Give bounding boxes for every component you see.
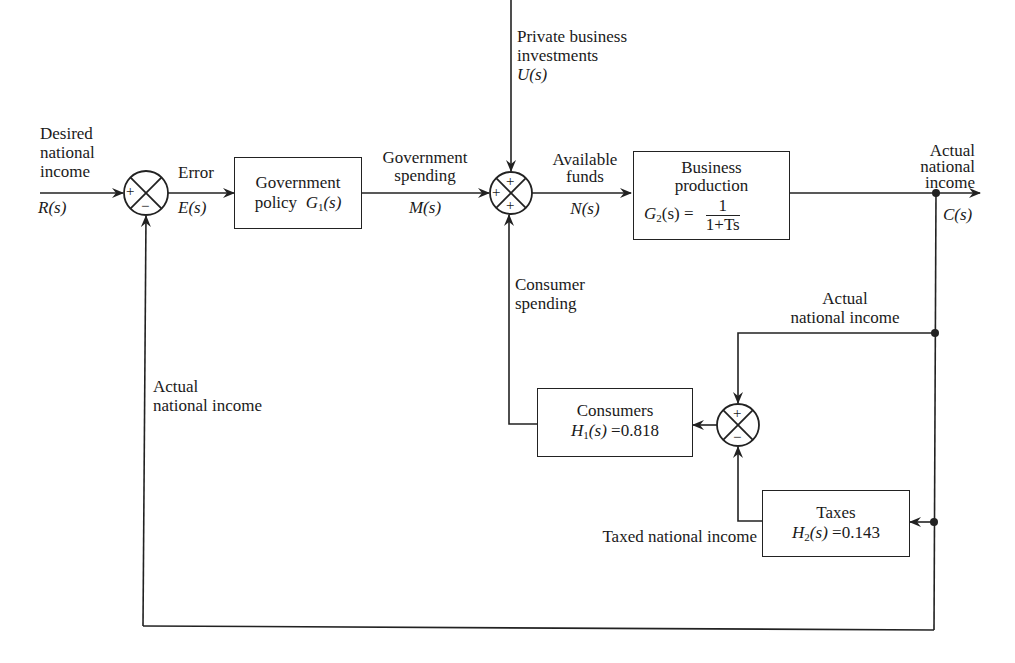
n-symbol: N(s)	[540, 199, 630, 218]
private-label-1: Private business	[517, 27, 627, 46]
consumer-spending-label-1: Consumer	[515, 275, 585, 294]
wire-consumer-spending	[509, 215, 537, 424]
business-line1: Business	[634, 158, 789, 177]
inner-actual-label-1: Actual	[770, 289, 920, 308]
diagram-wires	[0, 0, 1015, 663]
sum1-minus-sign: −	[141, 197, 149, 216]
outer-actual-label-1: Actual	[153, 377, 198, 396]
sum3-minus-sign: −	[733, 428, 741, 447]
error-label: Error	[178, 163, 214, 182]
consumers-gain: H1(s) =0.818	[538, 421, 692, 445]
gov-policy-line1: Government	[235, 173, 361, 192]
branch-dot-taxes	[930, 518, 938, 526]
gov-spending-label-1: Government	[370, 148, 480, 167]
consumers-block: Consumers H1(s) =0.818	[537, 388, 693, 457]
taxed-income-label: Taxed national income	[540, 527, 757, 546]
gov-spending-label-2: spending	[370, 166, 480, 185]
sum3-plus-sign: +	[733, 404, 741, 423]
c-symbol: C(s)	[943, 205, 972, 224]
private-label-2: investments	[517, 46, 598, 65]
sum2-bottom-plus-sign: +	[506, 196, 514, 215]
taxes-gain: H2(s) =0.143	[763, 523, 909, 547]
wire-output-feedback	[934, 193, 936, 630]
wire-outer-feedback	[143, 626, 934, 630]
gov-policy-line2: policy G1(s)	[235, 193, 361, 217]
e-symbol: E(s)	[178, 198, 206, 217]
outer-actual-label-2: national income	[153, 396, 262, 415]
desired-label-3: income	[40, 162, 90, 181]
inner-actual-label-2: national income	[770, 308, 920, 327]
consumers-line1: Consumers	[538, 401, 692, 420]
wire-outer-feedback-up	[143, 216, 146, 626]
desired-label-2: national	[40, 143, 95, 162]
block-diagram: + − + + + + − Desired national income R(…	[0, 0, 1015, 663]
wire-taxed-income	[738, 447, 762, 521]
fraction: 1 1+Ts	[706, 197, 740, 234]
r-symbol: R(s)	[38, 198, 66, 217]
government-policy-block: Government policy G1(s)	[234, 157, 362, 229]
m-symbol: M(s)	[370, 198, 480, 217]
consumer-spending-label-2: spending	[515, 294, 576, 313]
business-production-block: Business production G2(s) = 1 1+Ts	[633, 151, 790, 240]
sum2-top-plus-sign: +	[506, 172, 514, 191]
output-label-3: income	[900, 173, 975, 192]
branch-dot-inner	[931, 329, 939, 337]
business-line2: production	[634, 176, 789, 195]
taxes-line1: Taxes	[763, 503, 909, 522]
available-label-2: funds	[540, 167, 630, 186]
desired-label-1: Desired	[40, 124, 93, 143]
sum1-plus-sign: +	[126, 182, 134, 201]
sum2-left-plus-sign: +	[492, 183, 500, 202]
wire-inner-feedback	[738, 333, 935, 403]
business-transfer-function: G2(s) = 1 1+Ts	[644, 196, 740, 236]
taxes-block: Taxes H2(s) =0.143	[762, 490, 910, 557]
u-symbol: U(s)	[517, 65, 547, 84]
